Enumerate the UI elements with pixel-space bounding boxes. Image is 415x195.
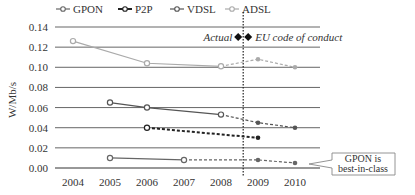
diamond-right-icon (244, 33, 252, 41)
legend-item-p2p: P2P (118, 3, 153, 15)
data-point-marker (218, 64, 223, 69)
x-axis: 2004200520062007200820092010 (62, 176, 307, 188)
data-point-marker (144, 105, 149, 110)
y-tick-label: 0.06 (29, 102, 49, 114)
y-axis: 0.000.020.040.060.080.100.120.14 (29, 21, 49, 174)
legend-item-gpon: GPON (56, 3, 103, 15)
data-point-marker (107, 155, 112, 160)
data-point-marker (107, 100, 112, 105)
legend-item-adsl: ADSL (225, 3, 271, 15)
projected-point-marker (256, 135, 261, 140)
projected-point-marker (293, 65, 298, 70)
data-point-marker (70, 39, 75, 44)
line-chart: GPONP2PVDSLADSL 0.000.020.040.060.080.10… (0, 0, 415, 195)
y-tick-label: 0.12 (29, 41, 48, 53)
projected-point-marker (293, 125, 298, 130)
actual-projection-divider: ActualEU code of conduct (202, 12, 343, 176)
legend-label: P2P (135, 3, 153, 15)
x-tick-label: 2008 (210, 176, 233, 188)
actual-label: Actual (202, 31, 232, 43)
projected-point-marker (256, 57, 261, 62)
series-vdsl (107, 100, 297, 130)
projected-point-marker (256, 158, 261, 163)
x-tick-label: 2010 (284, 176, 307, 188)
x-tick-label: 2009 (247, 176, 270, 188)
y-tick-label: 0.14 (29, 21, 49, 33)
data-point-marker (218, 112, 223, 117)
x-tick-label: 2007 (173, 176, 196, 188)
x-tick-label: 2004 (62, 176, 85, 188)
legend-label: ADSL (242, 3, 271, 15)
data-point-marker (181, 157, 186, 162)
data-point-marker (144, 61, 149, 66)
projected-point-marker (256, 120, 261, 125)
y-axis-label: W/Mb/s (6, 82, 18, 118)
diamond-left-icon (234, 33, 242, 41)
x-tick-label: 2005 (99, 176, 122, 188)
legend-label: GPON (73, 3, 103, 15)
series-adsl (70, 39, 297, 70)
projection-label: EU code of conduct (254, 31, 343, 43)
y-tick-label: 0.04 (29, 122, 49, 134)
projected-point-marker (293, 161, 298, 166)
y-tick-label: 0.08 (29, 81, 49, 93)
callout-box: GPON isbest-in-class (309, 153, 395, 175)
chart-canvas: GPONP2PVDSLADSL 0.000.020.040.060.080.10… (0, 0, 415, 195)
y-tick-label: 0.10 (29, 61, 49, 73)
legend-item-vdsl: VDSL (170, 3, 216, 15)
y-tick-label: 0.00 (29, 162, 49, 174)
legend-label: VDSL (187, 3, 216, 15)
y-tick-label: 0.02 (29, 142, 48, 154)
x-tick-label: 2006 (136, 176, 159, 188)
series-lines (70, 39, 297, 166)
data-point-marker (144, 125, 149, 130)
legend: GPONP2PVDSLADSL (56, 3, 271, 15)
callout-text: best-in-class (338, 163, 388, 174)
series-gpon (107, 155, 297, 165)
